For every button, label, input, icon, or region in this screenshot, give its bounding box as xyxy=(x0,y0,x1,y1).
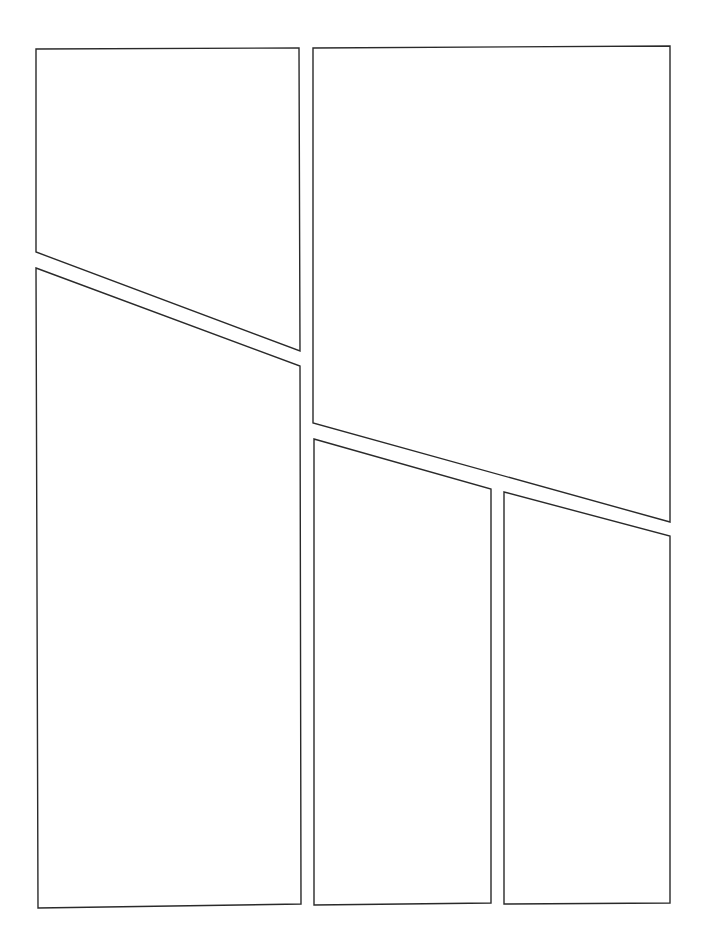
panel-layout xyxy=(0,0,709,941)
comic-page-template xyxy=(0,0,709,941)
comic-panel-top-right[interactable] xyxy=(313,46,670,522)
comic-panel-bottom-middle[interactable] xyxy=(314,439,491,905)
comic-panel-bottom-right[interactable] xyxy=(504,492,670,904)
comic-panel-bottom-left-tall[interactable] xyxy=(36,268,301,908)
